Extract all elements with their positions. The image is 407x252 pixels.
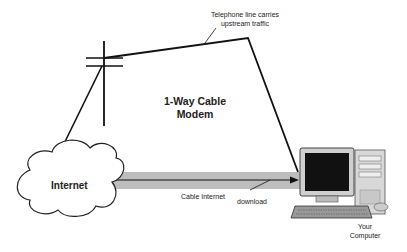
computer-label-line-2: Computer <box>340 231 390 240</box>
internet-cloud-icon <box>17 140 124 216</box>
telephone-label-leader <box>205 28 216 43</box>
telephone-label-line-1: Telephone line carries <box>195 10 295 19</box>
telephone-line-label: Telephone line carries upstream traffic <box>195 10 295 28</box>
telephone-label-line-2: upstream traffic <box>195 19 295 28</box>
download-label: download <box>237 197 267 206</box>
telephone-pole-icon <box>86 41 123 126</box>
title-line-2: Modem <box>150 108 240 121</box>
diagram-title: 1-Way Cable Modem <box>150 95 240 121</box>
internet-label: Internet <box>51 180 88 191</box>
computer-icon <box>291 148 388 218</box>
diagram-canvas <box>0 0 407 252</box>
title-line-1: 1-Way Cable <box>150 95 240 108</box>
cable-internet-label: Cable Internet <box>181 192 225 201</box>
computer-label-line-1: Your <box>340 222 390 231</box>
your-computer-label: Your Computer <box>340 222 390 240</box>
